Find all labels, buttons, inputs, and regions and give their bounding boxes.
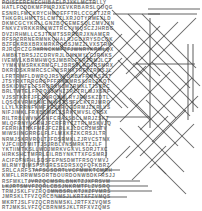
letter-grid: POISEERENECHIBAELPJXKLMCTRLLYHATLFCDDKMF… bbox=[0, 0, 202, 211]
word-search-puzzle[interactable]: POISEERENECHIBAELPJXKLMCTRLLYHATLFCDDKMF… bbox=[0, 0, 202, 211]
letter-row: RTJMKSLVFZQCBRNMSJKLTRFXVZQMS bbox=[0, 205, 202, 210]
